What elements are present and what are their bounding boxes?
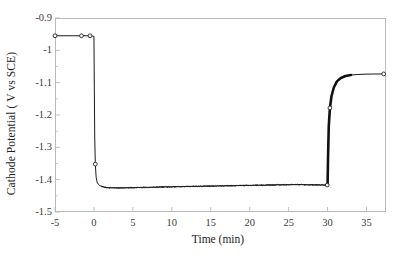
x-axis-title: Time (min) [50,233,386,245]
x-tick-label: 10 [157,217,187,228]
x-tick-label: 30 [313,217,343,228]
chart-figure: Cathode Potential ( V vs SCE) -0.9-1-1.1… [0,0,414,257]
x-tick-label: 5 [118,217,148,228]
x-tick-label: 0 [79,217,109,228]
x-axis-tick-labels: -505101520253035 [0,0,414,257]
x-tick-label: 20 [235,217,265,228]
x-tick-label: 15 [196,217,226,228]
x-tick-label: 25 [274,217,304,228]
x-tick-label: 35 [352,217,382,228]
x-tick-label: -5 [40,217,70,228]
